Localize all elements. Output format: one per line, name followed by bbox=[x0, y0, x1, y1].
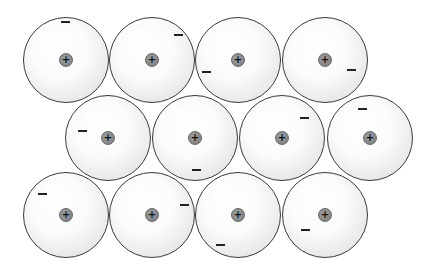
positive-ion-icon: + bbox=[59, 53, 73, 67]
positive-ion-icon: + bbox=[145, 208, 159, 222]
positive-ion-icon: + bbox=[188, 131, 202, 145]
positive-ion-icon: + bbox=[363, 131, 377, 145]
sphere-highlight bbox=[39, 181, 64, 203]
positive-ion-icon: + bbox=[101, 131, 115, 145]
positive-ion-icon: + bbox=[318, 53, 332, 67]
electron-icon bbox=[301, 229, 310, 231]
sphere-highlight bbox=[298, 181, 323, 203]
positive-ion-icon: + bbox=[231, 208, 245, 222]
positive-ion-icon: + bbox=[145, 53, 159, 67]
positive-ion-icon: + bbox=[59, 208, 73, 222]
sphere-highlight bbox=[125, 26, 150, 48]
sphere-highlight bbox=[255, 104, 280, 126]
sphere-highlight bbox=[125, 181, 150, 203]
positive-ion-icon: + bbox=[231, 53, 245, 67]
electron-icon bbox=[358, 108, 367, 110]
sphere-highlight bbox=[168, 104, 193, 126]
electron-icon bbox=[202, 71, 211, 73]
electron-icon bbox=[61, 21, 70, 23]
sphere-highlight bbox=[211, 26, 236, 48]
electron-icon bbox=[192, 169, 201, 171]
electron-icon bbox=[300, 117, 309, 119]
sphere-highlight bbox=[81, 104, 106, 126]
electron-icon bbox=[38, 193, 47, 195]
sphere-highlight bbox=[211, 181, 236, 203]
positive-ion-icon: + bbox=[275, 131, 289, 145]
electron-icon bbox=[180, 204, 189, 206]
positive-ion-icon: + bbox=[318, 208, 332, 222]
sphere-highlight bbox=[39, 26, 64, 48]
sphere-highlight bbox=[298, 26, 323, 48]
electron-icon bbox=[347, 69, 356, 71]
electron-icon bbox=[78, 130, 87, 132]
electron-icon bbox=[174, 34, 183, 36]
electron-icon bbox=[216, 244, 225, 246]
